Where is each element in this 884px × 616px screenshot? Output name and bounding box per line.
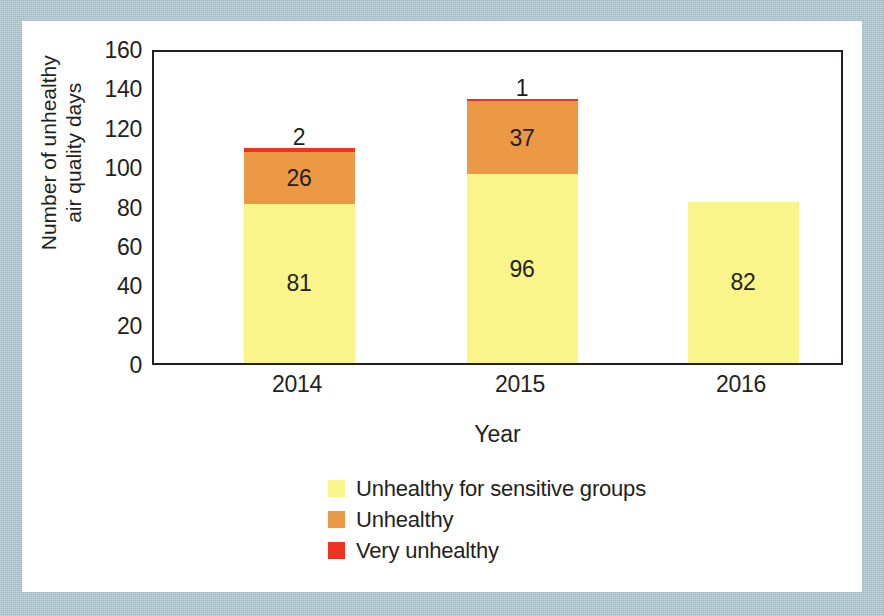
y-axis-tick-label: 120 — [105, 115, 142, 142]
legend-swatch-icon — [328, 542, 345, 559]
chart-legend: Unhealthy for sensitive groupsUnhealthyV… — [328, 473, 646, 566]
bar-value-label: 81 — [244, 270, 355, 297]
legend-item[interactable]: Unhealthy — [328, 504, 646, 535]
bar-value-label: 82 — [688, 269, 799, 296]
y-axis-tick-label: 0 — [130, 352, 143, 379]
y-axis-tick-label: 140 — [105, 76, 142, 103]
y-axis-tick-label: 100 — [105, 155, 142, 182]
bar-value-label: 26 — [244, 164, 355, 191]
legend-item-label: Very unhealthy — [356, 538, 499, 564]
x-axis-ticks: 201420152016 — [152, 371, 843, 405]
bar-segment[interactable]: 96 — [467, 174, 578, 363]
x-axis-tick-label: 2015 — [495, 371, 545, 398]
y-axis-tick-label: 80 — [117, 194, 142, 221]
legend-swatch-icon — [328, 480, 345, 497]
x-axis-title: Year — [152, 421, 843, 448]
y-axis-tick-label: 160 — [105, 37, 142, 64]
chart-card: Number of unhealthy air quality days 020… — [22, 21, 862, 592]
bar-value-label: 96 — [467, 255, 578, 282]
bar-group-2016[interactable]: 82 — [688, 202, 799, 363]
y-axis-tick-label: 20 — [117, 312, 142, 339]
bar-value-label: 37 — [467, 124, 578, 151]
legend-item-label: Unhealthy for sensitive groups — [356, 476, 646, 502]
legend-item[interactable]: Unhealthy for sensitive groups — [328, 473, 646, 504]
x-axis-tick-label: 2014 — [272, 371, 322, 398]
plot-area: 226811379682 — [152, 50, 843, 365]
bar-segment[interactable]: 82 — [688, 202, 799, 363]
plot-inner: 226811379682 — [154, 52, 841, 363]
y-axis-tick-label: 60 — [117, 233, 142, 260]
legend-swatch-icon — [328, 511, 345, 528]
bar-segment[interactable]: 37 — [467, 101, 578, 174]
legend-item-label: Unhealthy — [356, 507, 453, 533]
bar-segment[interactable]: 81 — [244, 204, 355, 363]
y-axis-ticks: 020406080100120140160 — [78, 50, 148, 365]
bar-segment[interactable]: 26 — [244, 152, 355, 203]
bar-value-label: 1 — [467, 75, 578, 102]
bar-group-2015[interactable]: 13796 — [467, 99, 578, 363]
legend-item[interactable]: Very unhealthy — [328, 535, 646, 566]
y-axis-title-line-1: Number of unhealthy — [37, 23, 62, 283]
y-axis-tick-label: 40 — [117, 273, 142, 300]
bar-value-label: 2 — [244, 124, 355, 151]
y-axis-title-container: Number of unhealthy air quality days — [30, 50, 74, 365]
bar-group-2014[interactable]: 22681 — [244, 148, 355, 363]
figure-root: Number of unhealthy air quality days 020… — [0, 0, 884, 616]
x-axis-tick-label: 2016 — [716, 371, 766, 398]
